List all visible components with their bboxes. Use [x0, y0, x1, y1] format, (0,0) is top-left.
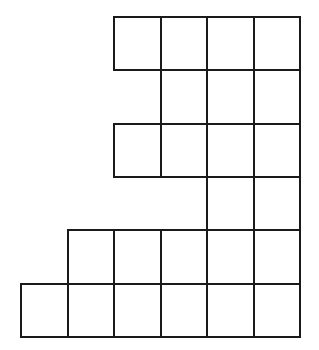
- grid-square: [160, 69, 208, 125]
- grid-square: [67, 229, 115, 285]
- grid-square: [206, 229, 255, 285]
- grid-square: [253, 176, 301, 231]
- grid-square: [253, 69, 301, 125]
- grid-square: [67, 283, 115, 338]
- grid-square: [113, 123, 162, 178]
- grid-square: [206, 176, 255, 231]
- grid-square: [253, 229, 301, 285]
- grid-square: [160, 283, 208, 338]
- grid-square: [253, 283, 301, 338]
- grid-square: [113, 16, 162, 71]
- grid-square: [160, 229, 208, 285]
- grid-square: [160, 123, 208, 178]
- grid-square: [206, 283, 255, 338]
- grid-square: [20, 283, 69, 338]
- grid-square: [253, 16, 301, 71]
- grid-square: [206, 69, 255, 125]
- grid-square: [253, 123, 301, 178]
- grid-square: [113, 229, 162, 285]
- grid-square: [160, 16, 208, 71]
- grid-square: [113, 283, 162, 338]
- grid-square: [206, 16, 255, 71]
- square-grid-figure: [0, 0, 319, 350]
- grid-square: [206, 123, 255, 178]
